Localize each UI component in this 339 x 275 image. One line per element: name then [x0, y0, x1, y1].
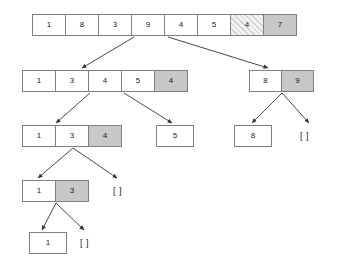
cell: 3: [55, 125, 89, 147]
cell: 8: [249, 70, 282, 92]
cell: 4: [88, 70, 122, 92]
cell: 1: [32, 14, 66, 36]
edge-l2-right: [73, 148, 117, 178]
empty-array-right-2b: [ ]: [300, 131, 309, 141]
edge-r1-left: [252, 93, 282, 123]
cell: 8: [65, 14, 99, 36]
cell: 9: [131, 14, 165, 36]
array-left-1: 13454: [22, 70, 188, 92]
edge-l1-right: [124, 93, 172, 123]
cell: 3: [55, 70, 89, 92]
edge-l1-left: [56, 93, 90, 123]
cell: 3: [98, 14, 132, 36]
cell: 1: [22, 70, 56, 92]
cell: 1: [22, 125, 56, 147]
cell: 1: [29, 232, 67, 254]
empty-array-right-4: [ ]: [80, 238, 89, 248]
array-right-1: 89: [249, 70, 314, 92]
array-mid-2: 5: [156, 125, 194, 147]
cell: 1: [22, 180, 56, 202]
edge-r1-right: [282, 93, 309, 123]
edge-root-left: [82, 37, 134, 68]
edge-l2-left: [38, 148, 73, 178]
recursion-tree-diagram: 18394547134548913458[ ]13[ ]1[ ]: [0, 0, 339, 275]
array-left-4: 1: [29, 232, 67, 254]
cell: 5: [121, 70, 155, 92]
cell: 5: [197, 14, 231, 36]
cell: 9: [281, 70, 314, 92]
array-root: 18394547: [32, 14, 297, 36]
cell: 3: [55, 180, 89, 202]
edge-l3-left: [42, 203, 56, 230]
cell: 5: [156, 125, 194, 147]
cell: 8: [234, 125, 272, 147]
edge-l3-right: [56, 203, 84, 230]
array-left-3: 13: [22, 180, 89, 202]
cell: 4: [230, 14, 264, 36]
cell: 4: [164, 14, 198, 36]
empty-array-right-3: [ ]: [113, 186, 122, 196]
cell: 7: [263, 14, 297, 36]
array-left-2: 134: [22, 125, 122, 147]
edge-root-right: [168, 37, 268, 68]
cell: 4: [88, 125, 122, 147]
cell: 4: [154, 70, 188, 92]
array-right-2a: 8: [234, 125, 272, 147]
